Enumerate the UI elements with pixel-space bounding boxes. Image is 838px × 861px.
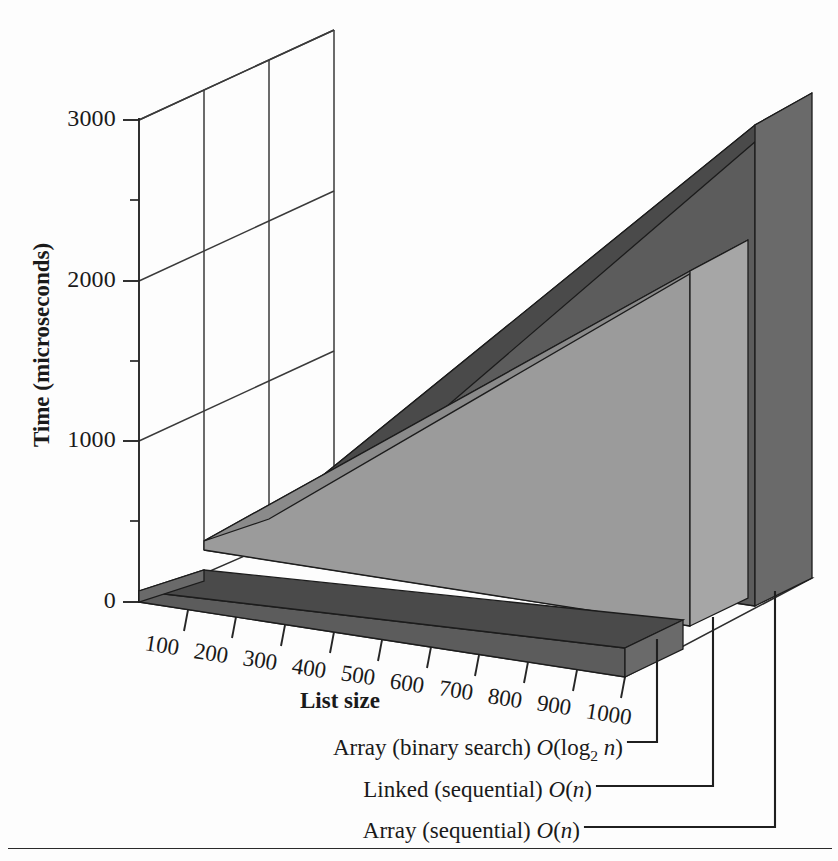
- y-axis: [123, 118, 139, 602]
- xtick-label-800: 800: [486, 683, 524, 714]
- chart-3d-ribbon: [0, 0, 838, 861]
- big-o-italic: O: [537, 735, 554, 760]
- ytick-label-3000: 3000: [36, 105, 116, 132]
- big-o-italic: O: [549, 777, 566, 802]
- legend-text-linked-sequential: Linked (sequential): [363, 777, 548, 802]
- page-footer-rule: [8, 848, 832, 849]
- big-o-italic: O: [537, 818, 554, 843]
- ytick-label-0: 0: [36, 587, 116, 614]
- legend-label-array-sequential: Array (sequential) O(n): [363, 818, 580, 844]
- x-axis-title: List size: [300, 688, 380, 714]
- figure-container: 3000 2000 1000 0 100 200 300 400 500 600…: [0, 0, 838, 861]
- series-linked-sequential: [204, 240, 748, 626]
- legend-text-array-binary-search: Array (binary search): [333, 735, 537, 760]
- legend-label-array-binary-search: Array (binary search) O(log2 n): [333, 735, 623, 765]
- xtick-label-100: 100: [143, 630, 181, 661]
- legend-text-array-sequential: Array (sequential): [363, 818, 537, 843]
- legend-label-linked-sequential: Linked (sequential) O(n): [363, 777, 592, 803]
- xtick-label-900: 900: [535, 690, 573, 721]
- xtick-label-600: 600: [388, 668, 426, 699]
- xtick-label-200: 200: [192, 638, 230, 669]
- xtick-label-400: 400: [290, 653, 328, 684]
- xtick-label-700: 700: [437, 675, 475, 706]
- xtick-label-300: 300: [241, 645, 279, 676]
- xtick-label-500: 500: [339, 660, 377, 691]
- y-axis-title: Time (microseconds): [29, 215, 55, 475]
- back-wall-grid: [139, 30, 334, 550]
